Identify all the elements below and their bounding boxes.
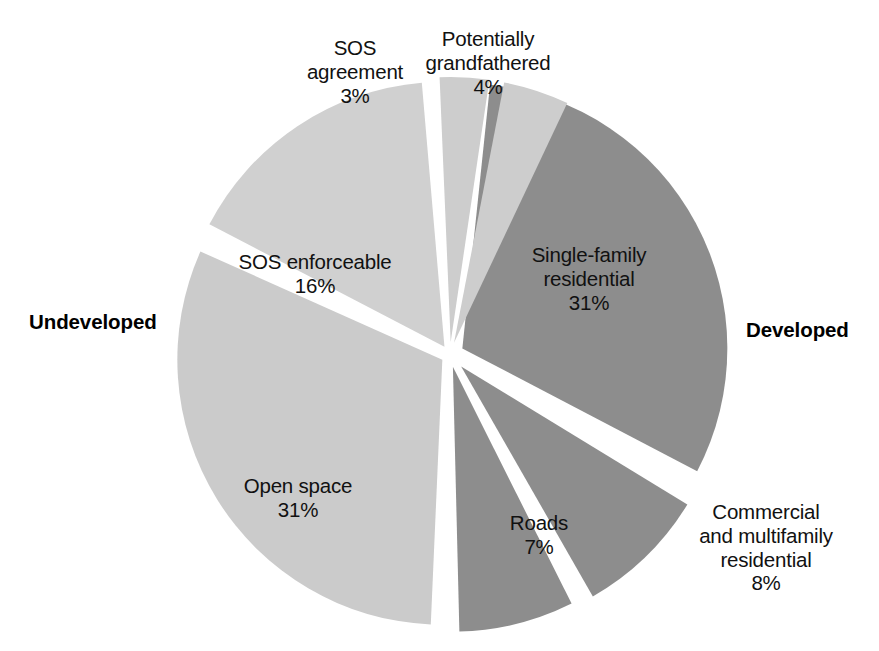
slice-label-sos-enforceable: SOS enforceable 16% (196, 250, 434, 298)
slice-label-open-space: Open space 31% (214, 474, 382, 522)
group-label-undeveloped: Undeveloped (29, 310, 157, 334)
slice-label-commercial-and-multifamily-residential: Commercial and multifamily residential 8… (666, 500, 866, 595)
slice-label-potentially-grandfathered: Potentially grandfathered 4% (388, 27, 588, 98)
pie-chart-figure: Single-family residential 31% Commercial… (0, 0, 879, 651)
pie-slices (177, 77, 727, 632)
slice-label-roads: Roads 7% (487, 511, 591, 559)
slice-label-single-family-residential: Single-family residential 31% (497, 243, 681, 314)
group-label-developed: Developed (746, 318, 849, 342)
